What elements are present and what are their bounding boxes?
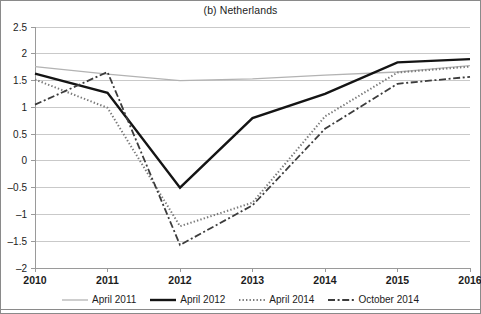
legend-item[interactable]: April 2014 (239, 294, 314, 305)
line-swatch-dotted-icon (239, 295, 265, 305)
x-axis-tick-label: 2015 (386, 274, 410, 286)
legend-item-label: April 2014 (269, 294, 314, 305)
y-axis-tick-labels: 2.521.510.50–0.5–1–1.5–2 (8, 22, 28, 274)
legend-item[interactable]: April 2011 (62, 294, 136, 305)
line-swatch-dash-dot-icon (328, 295, 354, 305)
legend-item[interactable]: April 2012 (150, 294, 225, 305)
y-axis-tick-label: 2.5 (13, 22, 27, 33)
data-series-group (35, 59, 470, 245)
x-axis-tick-label: 2016 (458, 274, 481, 286)
x-axis-tick-label: 2010 (23, 274, 47, 286)
line-swatch-solid-thin-icon (62, 295, 88, 305)
y-axis-tick-label: 2 (21, 48, 27, 59)
y-axis-tick-label: 0 (21, 155, 27, 166)
x-axis-tick-label: 2012 (168, 274, 192, 286)
legend-divider (1, 309, 480, 310)
chart-figure: (b) Netherlands 2.521.510.50–0.5–1–1.5–2… (0, 0, 481, 314)
series-line (35, 72, 470, 245)
legend-item[interactable]: October 2014 (328, 294, 419, 305)
line-swatch-solid-thick-icon (150, 295, 176, 305)
series-line (35, 66, 470, 81)
y-axis-tick-label: –2 (16, 263, 28, 274)
y-axis-tick-label: 1 (21, 102, 27, 113)
y-axis-tick-label: –1 (16, 209, 28, 220)
legend-item-label: April 2012 (180, 294, 225, 305)
y-axis-tick-label: –0.5 (8, 182, 28, 193)
y-axis-tick-label: –1.5 (8, 236, 28, 247)
x-axis-tick-label: 2011 (96, 274, 119, 286)
y-axis-tick-label: 1.5 (13, 75, 27, 86)
y-axis-tick-label: 0.5 (13, 129, 27, 140)
x-axis-tick-labels: 2010201120122013201420152016 (23, 268, 481, 286)
chart-legend: April 2011April 2012April 2014October 20… (0, 291, 481, 308)
x-axis-tick-label: 2014 (313, 274, 337, 286)
x-axis-tick-label: 2013 (241, 274, 265, 286)
legend-item-label: October 2014 (358, 294, 419, 305)
legend-item-label: April 2011 (92, 294, 136, 305)
line-chart-plot: 2.521.510.50–0.5–1–1.5–2 201020112012201… (0, 0, 481, 291)
